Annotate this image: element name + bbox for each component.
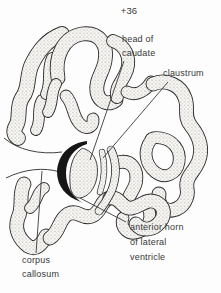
medial-surface-line-lower — [6, 169, 60, 178]
slice-level-value: +36 — [113, 4, 145, 18]
label-head-of-caudate: head of caudate — [122, 33, 155, 60]
cortex-gyri — [4, 34, 201, 248]
label-anterior-horn-of-lateral-ventricle: anterior horn of lateral ventricle — [130, 220, 184, 265]
caudate-head-shape — [70, 148, 98, 198]
label-claustrum: claustrum — [163, 67, 204, 81]
slice-level-label: +36 — [113, 4, 145, 18]
brain-slice-illustration — [0, 0, 221, 293]
central-structures — [57, 141, 116, 211]
anatomical-diagram-page: +36 head of caudate claustrum anterior h… — [0, 0, 221, 293]
label-corpus-callosum: corpus callosum — [22, 254, 59, 281]
